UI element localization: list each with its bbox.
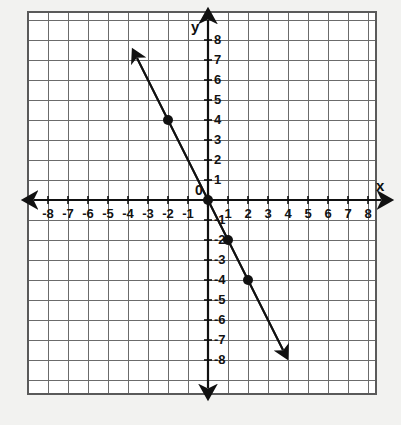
x-tick-label: -5 [102, 207, 114, 220]
y-tick-label: -2 [214, 233, 226, 246]
x-tick-label: 4 [284, 207, 291, 220]
plotted-point [243, 275, 253, 285]
plotted-point [163, 115, 173, 125]
graph-figure: x y 0 -8-7-6-5-4-3-2-11234567887654321-1… [0, 0, 401, 425]
x-tick-label: 6 [324, 207, 331, 220]
y-tick-label: 7 [214, 53, 221, 66]
y-tick-label: -4 [214, 273, 226, 286]
y-tick-label: -8 [214, 353, 226, 366]
y-tick-label: -7 [214, 333, 226, 346]
x-axis-label: x [376, 178, 384, 193]
x-tick-label: -1 [182, 207, 194, 220]
y-tick-label: -6 [214, 313, 226, 326]
x-tick-label: -7 [62, 207, 74, 220]
y-tick-label: -3 [214, 253, 226, 266]
plotted-point [203, 195, 213, 205]
y-axis-label: y [191, 19, 199, 34]
x-tick-label: 5 [304, 207, 311, 220]
y-tick-label: -1 [214, 213, 226, 226]
x-tick-label: -3 [142, 207, 154, 220]
x-tick-label: 2 [244, 207, 251, 220]
grid-lines [28, 12, 376, 394]
y-tick-label: 2 [214, 153, 221, 166]
y-tick-label: 5 [214, 93, 221, 106]
y-tick-label: 1 [214, 173, 221, 186]
y-tick-label: 4 [214, 113, 221, 126]
y-tick-label: 3 [214, 133, 221, 146]
origin-label: 0 [195, 183, 203, 197]
y-tick-label: -5 [214, 293, 226, 306]
x-tick-label: -8 [42, 207, 54, 220]
plot-border [28, 12, 376, 394]
y-tick-label: 6 [214, 73, 221, 86]
x-tick-label: -4 [122, 207, 134, 220]
x-tick-label: 8 [364, 207, 371, 220]
y-tick-label: 8 [214, 33, 221, 46]
coordinate-plane-svg [0, 0, 401, 425]
x-tick-label: -2 [162, 207, 174, 220]
x-tick-label: -6 [82, 207, 94, 220]
x-tick-label: 7 [344, 207, 351, 220]
x-tick-label: 3 [264, 207, 271, 220]
